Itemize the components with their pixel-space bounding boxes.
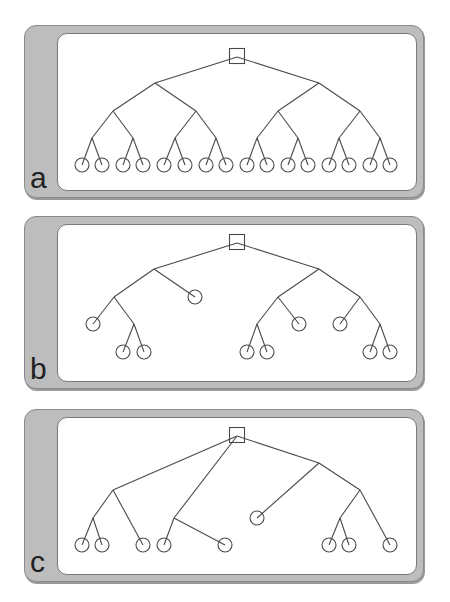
tree-edge <box>278 269 319 297</box>
tree-edge <box>92 111 113 138</box>
tree-edge <box>123 138 133 165</box>
root-node <box>230 235 245 250</box>
tree-edge <box>114 297 134 324</box>
tree-edge <box>319 83 360 111</box>
root-node <box>230 49 245 64</box>
tree-edge <box>247 138 257 165</box>
tree-edge <box>339 138 349 165</box>
tree-edge <box>93 518 102 545</box>
tree-edge <box>237 57 319 83</box>
tree-edge <box>278 111 298 138</box>
root-node <box>230 428 245 443</box>
tree-edge <box>370 138 380 165</box>
tree-edge <box>175 111 196 138</box>
tree-edge <box>278 297 299 324</box>
tree-edge <box>92 138 102 165</box>
tree-diagram <box>25 26 425 199</box>
tree-edge <box>257 138 267 165</box>
tree-edge <box>154 243 237 269</box>
tree-edge <box>174 436 237 518</box>
tree-edge <box>155 57 237 83</box>
tree-edge <box>319 463 360 490</box>
tree-edge <box>360 111 380 138</box>
tree-edge <box>174 518 225 545</box>
tree-edge <box>319 269 360 297</box>
tree-edge <box>360 490 390 545</box>
tree-edge <box>113 436 237 490</box>
tree-edge <box>93 490 113 518</box>
tree-edge <box>216 138 226 165</box>
tree-edge <box>298 138 308 165</box>
panel-b: b <box>24 216 424 389</box>
tree-edge <box>237 243 319 269</box>
tree-edge <box>82 138 92 165</box>
tree-diagram <box>25 410 425 583</box>
tree-edge <box>175 138 185 165</box>
tree-edge <box>196 111 216 138</box>
tree-diagram <box>25 217 425 390</box>
tree-edge <box>206 138 216 165</box>
tree-edge <box>113 83 155 111</box>
tree-edge <box>360 297 380 324</box>
tree-edge <box>93 297 114 324</box>
panel-a: a <box>24 25 424 198</box>
tree-edge <box>380 138 390 165</box>
tree-edge <box>329 138 339 165</box>
tree-edge <box>114 269 154 297</box>
panel-c: c <box>24 409 424 582</box>
tree-edge <box>113 111 133 138</box>
tree-edge <box>339 111 360 138</box>
tree-edge <box>257 463 319 518</box>
tree-edge <box>340 490 360 518</box>
tree-edge <box>237 436 319 463</box>
tree-edge <box>340 518 349 545</box>
tree-edge <box>155 83 196 111</box>
tree-edge <box>257 111 278 138</box>
tree-edge <box>288 138 298 165</box>
tree-edge <box>133 138 143 165</box>
tree-edge <box>278 83 319 111</box>
tree-edge <box>164 518 174 545</box>
tree-edge <box>257 297 278 324</box>
tree-edge <box>340 297 360 324</box>
tree-edge <box>113 490 143 545</box>
